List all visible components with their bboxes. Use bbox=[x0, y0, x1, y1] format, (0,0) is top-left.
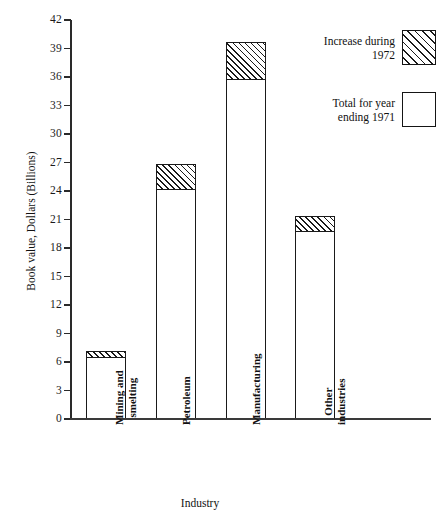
y-axis-tick bbox=[64, 361, 71, 363]
x-axis-tick-label-line: Other bbox=[322, 379, 335, 425]
y-axis-tick bbox=[64, 276, 71, 278]
y-axis-tick bbox=[64, 219, 71, 221]
y-axis-title: Book value, Dollars (Billions) bbox=[25, 116, 37, 326]
y-axis-tick bbox=[64, 333, 71, 335]
bar-segment-increase-1972 bbox=[295, 216, 335, 233]
y-axis-tick bbox=[64, 105, 71, 107]
bar-segment-increase-1972 bbox=[226, 42, 266, 81]
legend-label: Total for year ending 1971 bbox=[333, 96, 402, 124]
y-axis-tick bbox=[64, 19, 71, 21]
y-axis-tick bbox=[64, 133, 71, 135]
bar-segment-increase-1972 bbox=[86, 351, 126, 358]
x-axis-tick-label: Manufacturing bbox=[250, 354, 263, 426]
y-axis-tick-label: 9 bbox=[22, 328, 62, 340]
y-axis-tick-label: 36 bbox=[22, 71, 62, 83]
y-axis-tick-label: 6 bbox=[22, 356, 62, 368]
x-axis-tick-label: Otherindustries bbox=[322, 379, 347, 425]
legend-swatch-hatched bbox=[402, 30, 436, 65]
x-axis-tick-label-line: Mining and bbox=[113, 370, 126, 425]
y-axis-tick-label: 39 bbox=[22, 43, 62, 55]
x-axis-title: Industry bbox=[140, 497, 260, 509]
x-axis-tick-label-line: Manufacturing bbox=[250, 354, 263, 426]
y-axis-tick bbox=[64, 247, 71, 249]
y-axis-tick bbox=[64, 48, 71, 50]
x-axis-tick-label-line: industries bbox=[335, 379, 348, 425]
x-axis-tick-label-line: smelting bbox=[126, 370, 139, 425]
y-axis-tick bbox=[64, 162, 71, 164]
legend-swatch-empty bbox=[402, 92, 436, 127]
bar-segment-increase-1972 bbox=[156, 164, 196, 189]
y-axis-tick bbox=[64, 76, 71, 78]
y-axis-tick bbox=[64, 304, 71, 306]
x-axis-tick-label: Mining andsmelting bbox=[113, 370, 138, 425]
y-axis-tick-label: 33 bbox=[22, 100, 62, 112]
y-axis-tick-label: 0 bbox=[22, 413, 62, 425]
y-axis-tick bbox=[64, 390, 71, 392]
legend-item: Increase during 1972 bbox=[296, 30, 436, 65]
x-axis-tick-label: Petroleum bbox=[180, 376, 193, 425]
legend-item: Total for year ending 1971 bbox=[296, 92, 436, 127]
y-axis-tick-label: 42 bbox=[22, 14, 62, 26]
legend-label: Increase during 1972 bbox=[324, 34, 402, 62]
bar-chart: 03691215182124273033363942 Book value, D… bbox=[0, 0, 443, 527]
y-axis-tick bbox=[64, 190, 71, 192]
x-axis-tick-label-line: Petroleum bbox=[180, 376, 193, 425]
y-axis-tick-label: 3 bbox=[22, 385, 62, 397]
